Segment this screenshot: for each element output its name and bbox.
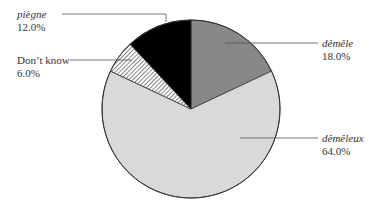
slice-label-percent: 6.0% [17, 67, 70, 80]
slice-label-percent: 12.0% [17, 21, 46, 34]
slice-label-name: Don’t know [17, 54, 70, 67]
label-demeleux: dêmêleux 64.0% [322, 132, 364, 158]
slice-label-name: dêmêleux [322, 132, 364, 145]
label-demele: dêmêle 18.0% [322, 37, 353, 63]
label-dont-know: Don’t know 6.0% [17, 54, 70, 80]
pie-chart [0, 0, 379, 203]
pie-slices [102, 20, 280, 198]
label-piegne: piègne 12.0% [17, 8, 46, 34]
slice-label-percent: 64.0% [322, 145, 364, 158]
slice-label-name: dêmêle [322, 37, 353, 50]
slice-label-name: piègne [17, 8, 46, 21]
slice-label-percent: 18.0% [322, 50, 353, 63]
